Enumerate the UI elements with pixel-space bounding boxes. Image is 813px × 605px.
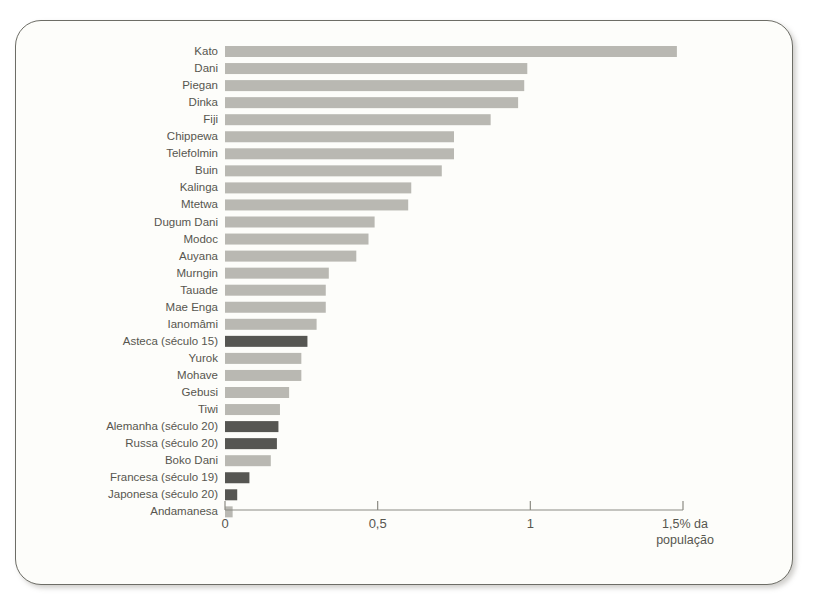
category-label: Mohave xyxy=(177,369,218,381)
category-label: Yurok xyxy=(189,352,219,364)
category-label: Tiwi xyxy=(198,403,218,415)
category-label: Mtetwa xyxy=(181,198,219,210)
axis-tick-label: 0 xyxy=(221,516,228,531)
category-label: Russa (século 20) xyxy=(125,437,218,449)
bar xyxy=(225,438,277,449)
bar xyxy=(225,182,411,193)
chart-svg: KatoDaniPieganDinkaFijiChippewaTelefolmi… xyxy=(16,21,794,586)
category-label: Kato xyxy=(194,45,218,57)
category-label: Boko Dani xyxy=(165,454,218,466)
category-label: Francesa (século 19) xyxy=(110,471,218,483)
bar xyxy=(225,370,301,381)
x-axis xyxy=(225,501,683,510)
bar-chart: KatoDaniPieganDinkaFijiChippewaTelefolmi… xyxy=(16,21,794,586)
bars-group xyxy=(225,46,677,517)
category-label: Gebusi xyxy=(182,386,218,398)
category-label: Chippewa xyxy=(167,130,219,142)
bar xyxy=(225,97,518,108)
bar xyxy=(225,404,280,415)
category-label: Japonesa (século 20) xyxy=(108,488,218,500)
category-label: Auyana xyxy=(179,250,219,262)
bar xyxy=(225,353,301,364)
bar xyxy=(225,80,524,91)
bar xyxy=(225,46,677,57)
category-label: Buin xyxy=(195,164,218,176)
category-label: Asteca (século 15) xyxy=(123,335,218,347)
bar xyxy=(225,336,307,347)
bar xyxy=(225,455,271,466)
category-label: Piegan xyxy=(182,79,218,91)
figure-frame: KatoDaniPieganDinkaFijiChippewaTelefolmi… xyxy=(15,20,793,585)
category-label: Murngin xyxy=(176,267,218,279)
category-label: Telefolmin xyxy=(166,147,218,159)
bar xyxy=(225,285,326,296)
category-label: Dugum Dani xyxy=(154,216,218,228)
bar xyxy=(225,421,278,432)
bar xyxy=(225,251,356,262)
bar xyxy=(225,199,408,210)
x-axis-caption: 1,5% dapopulação xyxy=(656,517,714,547)
bar xyxy=(225,472,249,483)
category-label: Fiji xyxy=(203,113,218,125)
bar xyxy=(225,234,369,245)
bar xyxy=(225,319,317,330)
bar xyxy=(225,148,454,159)
category-label: Kalinga xyxy=(180,181,219,193)
axis-tick-label: 0,5 xyxy=(369,516,387,531)
x-axis-tick-labels: 00,51 xyxy=(221,516,534,531)
category-labels-group: KatoDaniPieganDinkaFijiChippewaTelefolmi… xyxy=(106,45,218,517)
category-label: Ianomâmi xyxy=(168,318,219,330)
bar xyxy=(225,114,491,125)
axis-caption-line-1: 1,5% da xyxy=(662,517,708,531)
category-label: Andamanesa xyxy=(150,505,218,517)
bar xyxy=(225,217,375,228)
category-label: Mae Enga xyxy=(166,301,219,313)
bar xyxy=(225,63,527,74)
axis-caption-line-2: população xyxy=(656,533,714,547)
category-label: Tauade xyxy=(180,284,218,296)
category-label: Alemanha (século 20) xyxy=(106,420,218,432)
axis-tick-label: 1 xyxy=(527,516,534,531)
bar xyxy=(225,387,289,398)
category-label: Modoc xyxy=(183,233,218,245)
bar xyxy=(225,268,329,279)
category-label: Dani xyxy=(194,62,218,74)
category-label: Dinka xyxy=(189,96,219,108)
bar xyxy=(225,302,326,313)
bar xyxy=(225,165,442,176)
bar xyxy=(225,489,237,500)
bar xyxy=(225,131,454,142)
